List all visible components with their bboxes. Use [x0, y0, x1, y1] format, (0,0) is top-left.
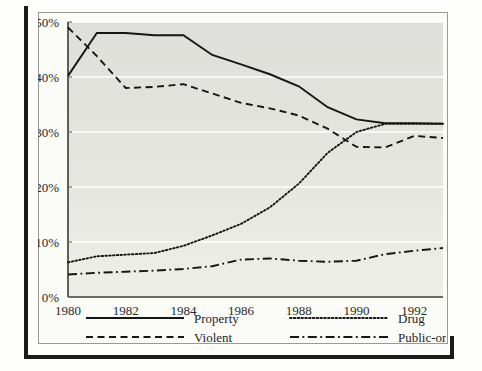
figure-root: 0%10%20%30%40%50% 1980198219841986198819…: [0, 0, 482, 371]
x-axis-tick-label: 1990: [343, 303, 369, 318]
scan-frame-left-rule: [24, 6, 28, 359]
x-axis-tick-label: 1980: [55, 303, 81, 318]
line-chart: 0%10%20%30%40%50% 1980198219841986198819…: [38, 12, 446, 342]
legend-label-drug: Drug: [398, 311, 425, 326]
y-axis-tick-labels: 0%10%20%30%40%50%: [38, 15, 59, 305]
y-axis-tick-label: 30%: [38, 125, 59, 140]
legend-label-violent: Violent: [194, 330, 233, 343]
chart-svg: 0%10%20%30%40%50% 1980198219841986198819…: [38, 12, 446, 342]
x-axis-tick-label: 1984: [170, 303, 197, 318]
x-axis-tick-label: 1982: [113, 303, 139, 318]
legend-label-public-order: Public-order: [398, 330, 446, 343]
y-axis-tick-label: 50%: [38, 15, 59, 30]
y-axis-tick-label: 10%: [38, 235, 59, 250]
y-axis-tick-label: 40%: [38, 70, 59, 85]
scan-frame-bottom-rule: [24, 355, 454, 359]
x-axis-tick-labels: 1980198219841986198819901992: [55, 303, 427, 318]
chart-legend: PropertyDrugViolentPublic-order: [86, 311, 446, 343]
plot-area-background: [68, 22, 443, 297]
y-axis-tick-label: 20%: [38, 180, 59, 195]
legend-label-property: Property: [194, 311, 239, 326]
scan-frame-right-rule: [450, 336, 454, 359]
x-axis-tick-label: 1988: [286, 303, 312, 318]
